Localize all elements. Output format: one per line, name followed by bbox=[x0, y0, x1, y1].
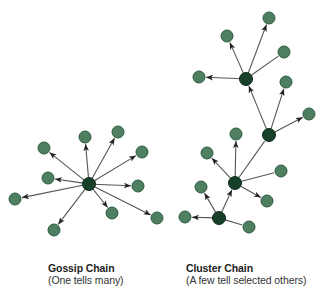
gossip-edge-g0-g10 bbox=[58, 187, 86, 224]
gossip-leaf-node bbox=[136, 146, 148, 158]
gossip-edge-g0-g1 bbox=[86, 144, 89, 180]
cluster-edge-h4-c12 bbox=[192, 217, 215, 218]
gossip-leaf-node bbox=[151, 212, 163, 224]
gossip-leaf-node bbox=[106, 207, 118, 219]
gossip-chain-title: Gossip Chain bbox=[48, 262, 123, 274]
gossip-chain-label: Gossip Chain (One tells many) bbox=[48, 262, 123, 286]
gossip-leaf-node bbox=[79, 131, 91, 143]
cluster-edge-h2-h1 bbox=[249, 86, 268, 131]
cluster-hub-node bbox=[263, 129, 276, 142]
gossip-leaf-node bbox=[132, 180, 144, 192]
nodes-layer bbox=[9, 12, 315, 236]
cluster-leaf-node bbox=[179, 211, 191, 223]
gossip-edge-g0-g2 bbox=[91, 138, 115, 181]
gossip-edge-g0-g4 bbox=[50, 152, 87, 181]
cluster-edge-h3-c9 bbox=[239, 173, 274, 182]
gossip-leaf-node bbox=[42, 172, 54, 184]
cluster-edge-h2-c6 bbox=[273, 117, 303, 133]
cluster-edge-h3-c7 bbox=[235, 141, 236, 179]
cluster-edge-h3-c11 bbox=[238, 185, 261, 198]
edges-layer bbox=[22, 25, 303, 226]
cluster-leaf-node bbox=[280, 76, 292, 88]
gossip-leaf-node bbox=[112, 126, 124, 138]
gossip-leaf-node bbox=[9, 193, 21, 205]
gossip-edge-g0-g8 bbox=[91, 187, 107, 207]
network-diagram bbox=[0, 0, 324, 295]
cluster-leaf-node bbox=[243, 221, 255, 233]
cluster-leaf-node bbox=[275, 165, 287, 177]
cluster-leaf-node bbox=[263, 12, 275, 24]
cluster-leaf-node bbox=[221, 30, 233, 42]
cluster-hub-node bbox=[229, 177, 242, 190]
cluster-leaf-node bbox=[201, 147, 213, 159]
cluster-edge-h1-c4 bbox=[206, 77, 242, 79]
cluster-leaf-node bbox=[195, 181, 207, 193]
cluster-edge-h2-c5 bbox=[270, 89, 284, 132]
cluster-leaf-node bbox=[261, 195, 273, 207]
cluster-edge-h4-c10 bbox=[205, 193, 218, 215]
gossip-edge-g0-g3 bbox=[92, 156, 136, 182]
gossip-leaf-node bbox=[48, 224, 60, 236]
cluster-hub-node bbox=[240, 73, 253, 86]
cluster-leaf-node bbox=[230, 128, 242, 140]
gossip-leaf-node bbox=[38, 142, 50, 154]
cluster-leaf-node bbox=[278, 46, 290, 58]
gossip-hub-node bbox=[83, 178, 96, 191]
cluster-chain-subtitle: (A few tell selected others) bbox=[186, 274, 306, 286]
cluster-edge-h3-c8 bbox=[212, 158, 233, 180]
cluster-hub-node bbox=[213, 212, 226, 225]
gossip-edge-g0-g6 bbox=[93, 184, 131, 186]
cluster-edge-h3-h2 bbox=[237, 141, 264, 180]
cluster-leaf-node bbox=[193, 71, 205, 83]
cluster-chain-title: Cluster Chain bbox=[186, 262, 306, 274]
cluster-edge-h1-c2 bbox=[230, 42, 245, 75]
gossip-edge-g0-g7 bbox=[22, 185, 85, 198]
cluster-chain-label: Cluster Chain (A few tell selected other… bbox=[186, 262, 306, 286]
cluster-edge-h4-h3 bbox=[221, 190, 232, 215]
gossip-edge-g0-g5 bbox=[55, 179, 85, 183]
cluster-edge-h1-c1 bbox=[247, 25, 266, 76]
cluster-leaf-node bbox=[303, 108, 315, 120]
gossip-chain-subtitle: (One tells many) bbox=[48, 274, 123, 286]
